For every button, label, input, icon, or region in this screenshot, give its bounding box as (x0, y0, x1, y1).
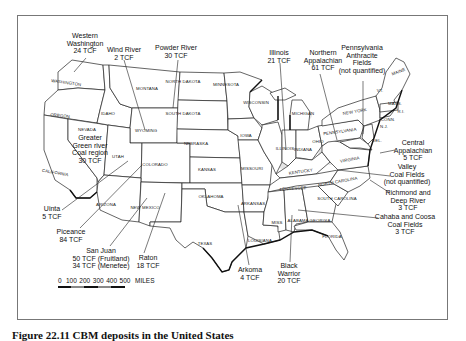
scale-tick-label: 300 (93, 277, 104, 284)
basin-label-line: Western (72, 32, 98, 39)
basin-label-line: Greater (78, 134, 102, 141)
basin-label-richmond-deep-river: Richmond andDeep River3 TCF (385, 189, 430, 211)
state-label-vt: VT. (377, 88, 384, 93)
basin-label-line: 84 TCF (59, 236, 82, 243)
state-label-michigan: MICHIGAN (292, 111, 314, 116)
basin-label-line: Central (402, 139, 425, 146)
scale-tick-label: 500 (120, 277, 131, 284)
basin-label-central-appalachian: CentralAppalachian5 TCF (394, 139, 433, 161)
basin-label-black-warrior: BlackWarrior20 TCF (277, 262, 301, 284)
basin-label-valley-coal-fields: ValleyCoal Fields(not quantified) (384, 163, 431, 186)
basin-label-line: Black (280, 262, 298, 269)
state-label-r-i: R.I. (397, 109, 404, 114)
basin-label-line: Richmond and (385, 189, 430, 196)
basin-label-line: 21 TCF (267, 57, 290, 64)
basin-label-wind-river: Wind River2 TCF (107, 46, 142, 61)
basin-label-line: Illinois (269, 49, 289, 56)
state-label-florida: FLORIDA (322, 234, 341, 239)
basin-label-line: 61 TCF (311, 64, 334, 71)
state-label-wyoming: WYOMING (135, 128, 158, 133)
basin-label-line: Warrior (278, 270, 301, 277)
scale-tick-label: 200 (79, 277, 90, 284)
scale-tick-labels: 0100200300400500 (58, 277, 131, 284)
state-label-conn: CONN. (381, 117, 395, 122)
basin-label-line: Cahaba and Coosa (375, 213, 435, 220)
state-boundaries (44, 58, 410, 272)
scale-tick-label: 100 (66, 277, 77, 284)
state-label-mass: MASS. (388, 101, 402, 106)
basin-label-line: 4 TCF (240, 274, 259, 281)
state-label-del: DEL. (372, 138, 382, 143)
state-label-texas: TEXAS (198, 241, 213, 246)
basin-label-san-juan: San Juan50 TCF (Fruitland)34 TCF (Menefe… (72, 247, 129, 270)
scale-tick-label: 0 (58, 277, 62, 284)
basin-label-line: Arkoma (238, 266, 262, 273)
basin-label-line: 20 TCF (277, 277, 300, 284)
basin-label-line: Green river (72, 142, 108, 149)
state-label-wisconsin: WISCONSIN (243, 100, 269, 105)
state-label-nevada: NEVADA (78, 127, 96, 132)
state-label-arizona: ARIZONA (96, 202, 116, 207)
figure-caption: Figure 22.11 CBM deposits in the United … (12, 329, 234, 341)
state-label-miss: MISS (272, 220, 283, 225)
basin-label-line: 3 TCF (398, 204, 417, 211)
state-label-iowa: IOWA (240, 133, 252, 138)
basin-label-line: Northern (309, 49, 336, 56)
basin-label-uinta: Uinta5 TCF (42, 205, 61, 220)
basin-label-western-washington: WesternWashington24 TCF (67, 32, 104, 54)
state-label-ohio: OHIO (312, 139, 324, 144)
basin-label-line: 30 TCF (78, 157, 101, 164)
basin-label-line: Coal Fields (389, 171, 425, 178)
basin-label-line: 34 TCF (Menefee) (72, 262, 129, 270)
state-label-minnesota: MINNESOTA (213, 82, 239, 87)
basin-label-powder-river: Powder River30 TCF (155, 44, 198, 59)
state-label-nebraska: NEBRASKA (184, 141, 208, 146)
state-label-south-carolina: SOUTH CAROLINA (317, 196, 357, 201)
state-label-arkansas: ARKANSAS (241, 201, 265, 206)
basin-label-line: Coal Fields (387, 221, 423, 228)
basin-label-line: 24 TCF (73, 47, 96, 54)
state-label-idaho: IDAHO (101, 111, 116, 116)
basin-label-line: 30 TCF (164, 52, 187, 59)
state-label-indiana: INDIANA (294, 147, 312, 152)
state-label-georgia: GEORGIA (310, 218, 331, 223)
state-label-north-dakota: NORTH DAKOTA (166, 79, 201, 84)
state-label-missouri: MISSOURI (241, 166, 263, 171)
basin-label-line: 2 TCF (114, 54, 133, 61)
state-label-kansas: KANSAS (198, 167, 216, 172)
basin-label-line: Fields (353, 59, 372, 66)
basin-label-arkoma: Arkoma4 TCF (238, 266, 262, 281)
basin-label-line: Uinta (44, 205, 60, 212)
basin-label-line: Piceance (57, 228, 86, 235)
state-label-colorado: COLORADO (142, 162, 168, 167)
basin-label-line: (not quantified) (339, 67, 386, 75)
state-label-oklahoma: OKLAHOMA (198, 194, 223, 199)
basin-label-line: Wind River (107, 46, 142, 53)
state-label-n-j: N.J. (380, 124, 388, 129)
basin-label-line: 3 TCF (395, 228, 414, 235)
scale-bar-graphic (58, 286, 125, 288)
state-label-louisiana: LOUISIANA (248, 238, 272, 243)
state-label-alabama: ALABAMA (288, 218, 309, 223)
basin-label-line: Anthracite (346, 52, 378, 59)
basin-label-line: Raton (139, 254, 158, 261)
scale-unit: MILES (135, 277, 155, 284)
state-label-montana: MONTANA (136, 86, 158, 91)
state-label-south-dakota: SOUTH DAKOTA (166, 111, 201, 116)
basin-label-cahaba-coosa: Cahaba and CoosaCoal Fields3 TCF (375, 213, 435, 235)
scale-bar: 0100200300400500 MILES (58, 277, 155, 288)
state-label-utah: UTAH (112, 154, 124, 159)
basin-label-line: 5 TCF (403, 154, 422, 161)
basin-label-line: 18 TCF (136, 262, 159, 269)
basin-label-line: 5 TCF (42, 213, 61, 220)
scale-tick-label: 400 (106, 277, 117, 284)
basin-label-illinois: Illinois21 TCF (267, 49, 290, 64)
state-label-new-mexico: NEW MEXICO (130, 205, 160, 210)
state-label-illinois: ILLINOIS (276, 146, 295, 151)
basin-label-raton: Raton18 TCF (136, 254, 159, 269)
basin-label-line: Powder River (155, 44, 198, 51)
basin-label-piceance: Piceance84 TCF (57, 228, 86, 243)
basin-label-line: San Juan (86, 247, 116, 254)
basin-label-line: (not quantified) (384, 178, 431, 186)
